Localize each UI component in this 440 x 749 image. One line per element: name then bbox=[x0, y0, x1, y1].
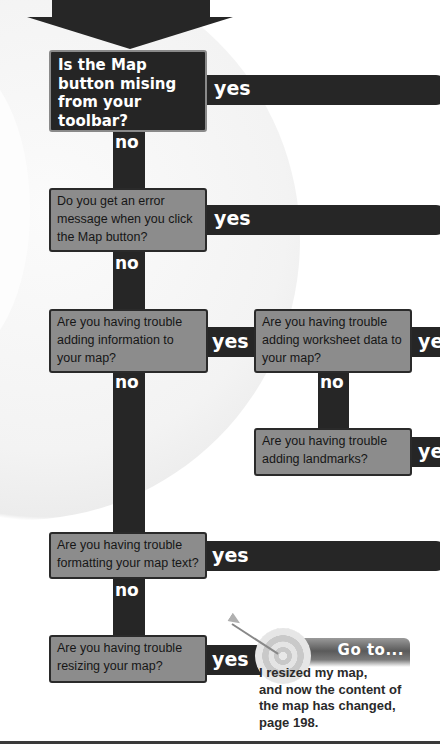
question-line: your map? bbox=[262, 349, 410, 367]
down-arrow-shaft bbox=[52, 0, 210, 18]
question-box-adding-worksheet-data: Are you having trouble adding worksheet … bbox=[254, 309, 412, 373]
goto-line: I resized my map, bbox=[259, 665, 434, 682]
bottom-rule-divider bbox=[0, 741, 440, 744]
yes-label-q5-cropped: ye bbox=[418, 440, 440, 462]
yes-label-q1: yes bbox=[214, 77, 251, 99]
question-box-adding-information: Are you having trouble adding informatio… bbox=[49, 309, 208, 373]
no-label-q1: no bbox=[115, 131, 139, 153]
down-arrow-icon bbox=[27, 17, 233, 49]
question-line: button mising bbox=[58, 75, 205, 94]
question-box-resizing-map: Are you having trouble resizing your map… bbox=[49, 635, 207, 683]
question-line: Are you having trouble bbox=[262, 313, 410, 331]
question-line: Are you having trouble bbox=[57, 313, 206, 331]
yes-label-q6: yes bbox=[212, 544, 249, 566]
goto-line: the map has changed, bbox=[259, 698, 434, 715]
yes-label-q4-cropped: ye bbox=[418, 330, 440, 352]
goto-reference[interactable]: I resized my map, and now the content of… bbox=[259, 665, 434, 731]
question-line: message when you click bbox=[57, 210, 205, 228]
connector-no-q3-q6 bbox=[113, 372, 145, 534]
question-line: the Map button? bbox=[57, 228, 205, 246]
question-line: Do you get an error bbox=[57, 192, 205, 210]
question-box-error-message: Do you get an error message when you cli… bbox=[49, 188, 207, 252]
yes-label-q3: yes bbox=[212, 330, 249, 352]
no-label-q4: no bbox=[320, 371, 344, 393]
goto-title: Go to... bbox=[338, 641, 404, 659]
goto-line: and now the content of bbox=[259, 682, 434, 699]
question-line: adding worksheet data to bbox=[262, 331, 410, 349]
question-box-formatting-text: Are you having trouble formatting your m… bbox=[49, 532, 207, 579]
question-line: adding information to bbox=[57, 331, 206, 349]
question-line: your map? bbox=[57, 349, 206, 367]
question-box-adding-landmarks: Are you having trouble adding landmarks? bbox=[254, 428, 412, 476]
question-line: Are you having trouble bbox=[262, 432, 410, 450]
yes-label-q2: yes bbox=[214, 207, 251, 229]
no-label-q2: no bbox=[115, 252, 139, 274]
question-line: toolbar? bbox=[58, 112, 205, 131]
question-box-map-button-missing: Is the Map button mising from your toolb… bbox=[49, 50, 207, 132]
goto-line: page 198. bbox=[259, 715, 434, 732]
question-line: Is the Map bbox=[58, 56, 205, 75]
question-line: adding landmarks? bbox=[262, 450, 410, 468]
yes-label-q7: yes bbox=[212, 648, 249, 670]
question-line: from your bbox=[58, 93, 205, 112]
no-label-q3: no bbox=[115, 371, 139, 393]
question-line: Are you having trouble bbox=[57, 639, 205, 657]
question-line: resizing your map? bbox=[57, 657, 205, 675]
no-label-q6: no bbox=[115, 579, 139, 601]
question-line: Are you having trouble bbox=[57, 536, 205, 554]
question-line: formatting your map text? bbox=[57, 554, 205, 572]
